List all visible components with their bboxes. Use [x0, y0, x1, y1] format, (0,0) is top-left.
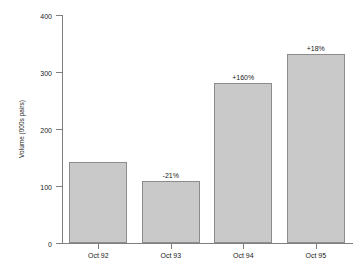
bar: +160%: [214, 83, 272, 243]
bar: +18%: [287, 54, 345, 243]
y-tick: 0: [56, 243, 62, 244]
bar-chart: Volume (000s pairs) 0100200300400 -21%+1…: [0, 0, 363, 272]
x-tick: [243, 244, 244, 249]
y-tick-label: 0: [48, 240, 52, 247]
y-axis-title: Volume (000s pairs): [19, 100, 26, 158]
x-tick: [98, 244, 99, 249]
bar: -21%: [142, 181, 200, 243]
bar-value-label: -21%: [163, 172, 179, 179]
x-category-label: Oct 95: [305, 252, 326, 259]
x-tick: [171, 244, 172, 249]
bar: [69, 162, 127, 243]
x-category-label: Oct 92: [88, 252, 109, 259]
y-tick-label: 100: [40, 183, 52, 190]
y-tick-label: 400: [40, 12, 52, 19]
x-category-label: Oct 93: [160, 252, 181, 259]
x-category-label: Oct 94: [233, 252, 254, 259]
bar-value-label: +160%: [232, 74, 254, 81]
x-axis-line: [62, 243, 353, 244]
y-tick-label: 200: [40, 126, 52, 133]
y-tick-label: 300: [40, 69, 52, 76]
x-tick: [316, 244, 317, 249]
bar-value-label: +18%: [307, 45, 325, 52]
plot-area: -21%+160%+18%: [62, 15, 352, 243]
